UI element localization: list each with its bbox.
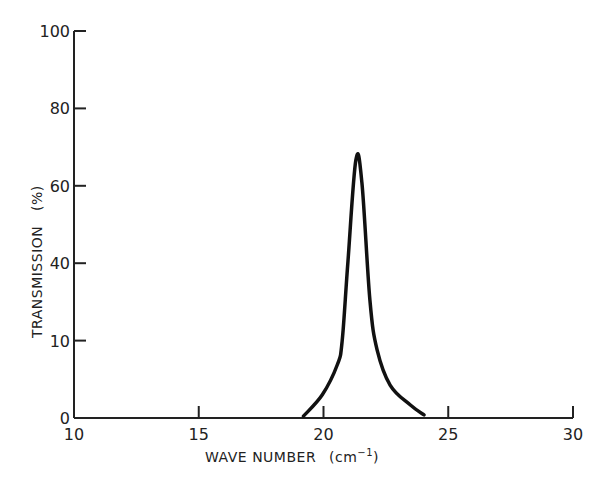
x-tick-label: 20: [313, 425, 333, 444]
x-tick-label: 10: [64, 425, 84, 444]
x-tick-label: 15: [189, 425, 209, 444]
y-tick-label: 60: [50, 177, 70, 196]
x-axis-title: WAVE NUMBER (cm−1): [205, 447, 379, 465]
y-tick-label: 10: [50, 332, 70, 351]
transmission-chart: 010406080100 1015202530 WAVE NUMBER (cm−…: [0, 0, 601, 480]
x-tick-label: 25: [438, 425, 458, 444]
y-tick-label: 40: [50, 254, 70, 273]
x-axis-ticks: 1015202530: [64, 406, 583, 444]
y-axis-ticks: 010406080100: [39, 22, 86, 428]
y-tick-label: 100: [39, 22, 70, 41]
y-axis-title: TRANSMISSION (%): [29, 185, 45, 339]
axes: [74, 31, 573, 418]
x-tick-label: 30: [563, 425, 583, 444]
y-tick-label: 80: [50, 99, 70, 118]
transmission-curve: [304, 154, 425, 416]
